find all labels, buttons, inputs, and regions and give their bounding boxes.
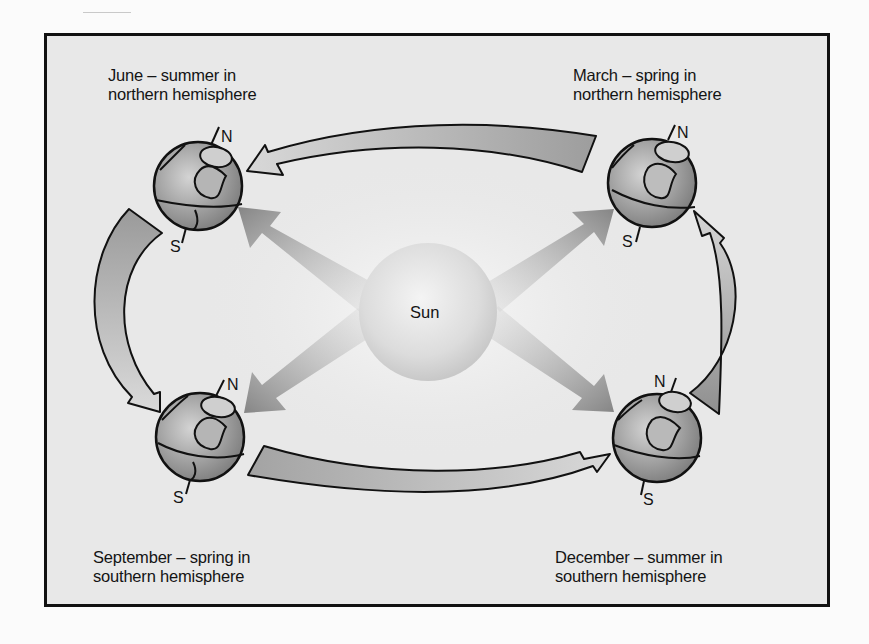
label-june-line1: June – summer in [108,66,256,85]
label-september-line2: southern hemisphere [93,567,250,586]
pole-s-december: S [643,491,654,509]
label-march: March – spring in northern hemisphere [573,66,721,104]
label-september-line1: September – spring in [93,548,250,567]
pole-n-december: N [654,373,666,391]
label-december-line2: southern hemisphere [555,567,722,586]
label-september: September – spring in southern hemispher… [93,548,250,586]
pole-n-june: N [221,128,233,146]
pole-s-june: S [170,238,181,256]
globe-march [608,125,696,242]
label-march-line2: northern hemisphere [573,85,721,104]
pole-s-march: S [622,233,633,251]
globe-september [156,380,244,494]
orbit-arrow-december-to-march [690,211,736,414]
label-june: June – summer in northern hemisphere [108,66,256,104]
label-march-line1: March – spring in [573,66,721,85]
globe-december [613,378,701,495]
label-december-line1: December – summer in [555,548,722,567]
pole-n-march: N [677,124,689,142]
label-december: December – summer in southern hemisphere [555,548,722,586]
pole-n-september: N [227,376,239,394]
orbit-arrow-june-to-september [94,209,162,412]
label-june-line2: northern hemisphere [108,85,256,104]
sun-label: Sun [410,303,439,322]
pole-s-september: S [173,489,184,507]
